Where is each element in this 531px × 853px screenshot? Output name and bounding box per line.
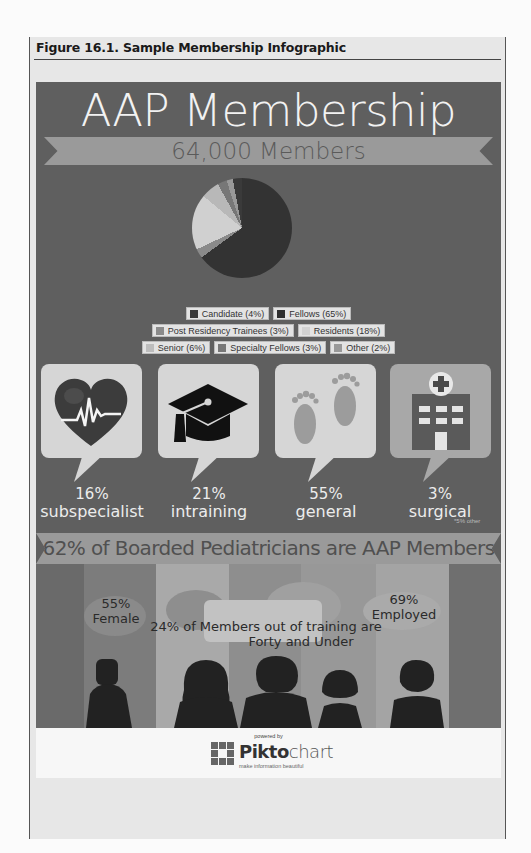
legend-label: Senior (6%) xyxy=(158,343,206,353)
boarded-ribbon: 62% of Boarded Pediatricians are AAP Mem… xyxy=(36,533,501,564)
graduation-cap-icon xyxy=(158,364,259,458)
legend-item-senior: Senior (6%) xyxy=(142,341,211,354)
card-subspecialist xyxy=(41,364,142,458)
legend-swatch xyxy=(302,327,310,335)
hospital-icon xyxy=(390,364,491,458)
legend-swatch xyxy=(218,344,226,352)
legend-swatch xyxy=(156,327,164,335)
stat-percent: 16% xyxy=(75,485,108,503)
legend-label: Residents (18%) xyxy=(314,326,381,336)
stat-label: surgical xyxy=(380,503,500,520)
card-pointer xyxy=(308,454,338,482)
brand-light: chart xyxy=(289,741,333,762)
legend-swatch xyxy=(190,310,198,318)
people-section: 55% Female 24% of Members out of trainin… xyxy=(36,564,501,728)
members-ribbon: 64,000 Members xyxy=(44,137,493,165)
legend-label: Candidate (4%) xyxy=(202,309,265,319)
membership-pie-chart xyxy=(192,178,292,278)
legend-item-specialty-fellows: Specialty Fellows (3%) xyxy=(214,341,326,354)
legend-item-fellows: Fellows (65%) xyxy=(273,307,351,320)
piktochart-wordmark: Piktochart xyxy=(239,741,333,762)
card-stat-surgical: 3% surgical xyxy=(380,486,500,520)
card-general xyxy=(275,364,376,458)
piktochart-footer: powered by Piktochart make information b… xyxy=(36,728,501,778)
figure-box: Figure 16.1. Sample Membership Infograph… xyxy=(29,37,506,839)
heartbeat-icon xyxy=(41,364,142,458)
stat-percent: 55% xyxy=(309,485,342,503)
stat-percent: 3% xyxy=(428,485,452,503)
legend-label: Fellows (65%) xyxy=(289,309,346,319)
powered-by-label: powered by xyxy=(36,733,501,739)
card-stat-intraining: 21% intraining xyxy=(149,486,269,520)
card-pointer xyxy=(74,454,104,482)
boarded-stat: 62% of Boarded Pediatricians are AAP Mem… xyxy=(36,533,501,564)
card-pointer xyxy=(191,454,221,482)
infographic: AAP Membership 64,000 Members Candidate … xyxy=(36,82,501,728)
card-stat-subspecialist: 16% subspecialist xyxy=(36,486,152,520)
pie-legend: Candidate (4%) Fellows (65%) Post Reside… xyxy=(36,307,501,358)
card-stat-general: 55% general xyxy=(266,486,386,520)
legend-swatch xyxy=(277,310,285,318)
legend-label: Specialty Fellows (3%) xyxy=(230,343,321,353)
legend-row: Candidate (4%) Fellows (65%) xyxy=(36,307,501,320)
stat-label: intraining xyxy=(149,503,269,520)
legend-row: Post Residency Trainees (3%) Residents (… xyxy=(36,324,501,337)
card-pointer xyxy=(423,454,453,482)
footnote: *5% other xyxy=(454,518,480,524)
brand-bold: Pikto xyxy=(239,741,289,762)
people-silhouettes-icon xyxy=(36,564,501,728)
card-intraining xyxy=(158,364,259,458)
piktochart-tagline: make information beautiful xyxy=(239,763,304,769)
stat-percent: 21% xyxy=(192,485,225,503)
caption-divider xyxy=(34,59,501,60)
legend-item-other: Other (2%) xyxy=(330,341,395,354)
legend-swatch xyxy=(334,344,342,352)
legend-swatch xyxy=(146,344,154,352)
members-count: 64,000 Members xyxy=(44,137,493,165)
legend-row: Senior (6%) Specialty Fellows (3%) Other… xyxy=(36,341,501,354)
footprints-icon xyxy=(275,364,376,458)
stat-label: general xyxy=(266,503,386,520)
legend-item-residents: Residents (18%) xyxy=(298,324,386,337)
legend-item-post-residency-trainees: Post Residency Trainees (3%) xyxy=(152,324,294,337)
stat-label: subspecialist xyxy=(36,503,152,520)
card-surgical xyxy=(390,364,491,458)
legend-item-candidate: Candidate (4%) xyxy=(186,307,270,320)
legend-label: Post Residency Trainees (3%) xyxy=(168,326,289,336)
infographic-title: AAP Membership xyxy=(36,84,501,137)
piktochart-logo-icon xyxy=(211,742,235,766)
figure-caption: Figure 16.1. Sample Membership Infograph… xyxy=(36,40,346,55)
legend-label: Other (2%) xyxy=(346,343,390,353)
